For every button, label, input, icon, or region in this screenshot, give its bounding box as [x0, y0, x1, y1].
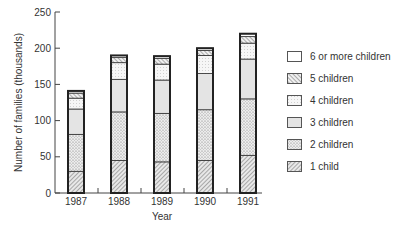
legend-item: 4 children — [287, 89, 391, 111]
x-tick-label: 1990 — [194, 196, 217, 207]
bar-1990 — [197, 48, 213, 193]
bar-segment — [154, 64, 170, 80]
bar-segment — [240, 99, 256, 155]
bar-segment — [240, 43, 256, 59]
bar-segment — [154, 58, 170, 64]
legend-swatch-fine-grid — [287, 95, 302, 106]
legend-item: 6 or more children — [287, 45, 391, 67]
x-axis-title: Year — [152, 211, 173, 222]
bar-segment — [197, 55, 213, 73]
legend-swatch-dots — [287, 139, 302, 150]
bar-segment — [240, 59, 256, 99]
bar-1989 — [154, 56, 170, 193]
x-tick-label: 1989 — [151, 196, 174, 207]
legend-swatch-hatch-dense — [287, 161, 302, 172]
legend-item: 5 children — [287, 67, 391, 89]
legend-item: 2 children — [287, 133, 391, 155]
legend-label: 4 children — [310, 95, 353, 106]
bar-segment — [240, 37, 256, 44]
bar-segment — [197, 110, 213, 161]
bar-segment — [154, 113, 170, 162]
bar-segment — [197, 74, 213, 110]
bar-segment — [111, 112, 127, 161]
y-tick-label: 200 — [34, 43, 51, 54]
bar-segment — [197, 160, 213, 193]
axes: 05010015020025019871988198919901991YearN… — [13, 7, 262, 223]
bar-segment — [111, 58, 127, 63]
x-tick-label: 1987 — [65, 196, 88, 207]
y-tick-label: 150 — [34, 79, 51, 90]
bar-1987 — [68, 91, 84, 193]
legend-label: 6 or more children — [310, 51, 391, 62]
bar-segment — [68, 134, 84, 171]
bar-segment — [68, 98, 84, 109]
legend-label: 3 children — [310, 117, 353, 128]
bar-segment — [154, 162, 170, 193]
bar-segment — [68, 171, 84, 193]
legend-item: 3 children — [287, 111, 391, 133]
bar-1988 — [111, 55, 127, 193]
legend: 6 or more children5 children4 children3 … — [287, 45, 391, 177]
bar-segment — [197, 50, 213, 55]
legend-label: 2 children — [310, 139, 353, 150]
legend-label: 1 child — [310, 161, 339, 172]
bar-segment — [68, 109, 84, 134]
bar-segment — [154, 80, 170, 113]
bar-segment — [68, 93, 84, 98]
legend-label: 5 children — [310, 73, 353, 84]
y-tick-label: 250 — [34, 7, 51, 18]
y-tick-label: 0 — [45, 188, 51, 199]
y-axis-title: Number of families (thousands) — [13, 33, 24, 172]
x-tick-label: 1991 — [237, 196, 260, 207]
legend-swatch-white — [287, 51, 302, 62]
bar-segment — [111, 63, 127, 80]
bar-1991 — [240, 34, 256, 193]
bars — [68, 34, 256, 193]
x-tick-label: 1988 — [108, 196, 131, 207]
bar-segment — [111, 79, 127, 112]
legend-swatch-hatch-wide — [287, 73, 302, 84]
y-tick-label: 100 — [34, 115, 51, 126]
legend-item: 1 child — [287, 155, 391, 177]
legend-swatch-light-grey — [287, 117, 302, 128]
bar-segment — [111, 160, 127, 193]
y-tick-label: 50 — [40, 151, 52, 162]
bar-segment — [240, 155, 256, 193]
